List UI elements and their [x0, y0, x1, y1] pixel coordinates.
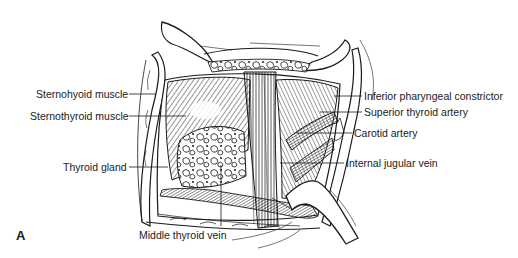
label-carotid-artery: Carotid artery [354, 127, 418, 139]
panel-letter: A [16, 228, 25, 243]
label-internal-jugular-vein: Internal jugular vein [346, 157, 438, 169]
label-sternothyroid-muscle: Sternothyroid muscle [30, 110, 129, 122]
label-superior-thyroid-artery: Superior thyroid artery [364, 106, 468, 118]
label-middle-thyroid-vein: Middle thyroid vein [139, 229, 227, 241]
anatomical-figure: Sternohyoid muscle Sternothyroid muscle … [0, 0, 518, 258]
label-sternohyoid-muscle: Sternohyoid muscle [36, 88, 128, 100]
label-thyroid-gland: Thyroid gland [63, 161, 127, 173]
surgical-field-illustration [0, 0, 518, 258]
label-inferior-pharyngeal-constrictor: Inferior pharyngeal constrictor [364, 90, 503, 102]
